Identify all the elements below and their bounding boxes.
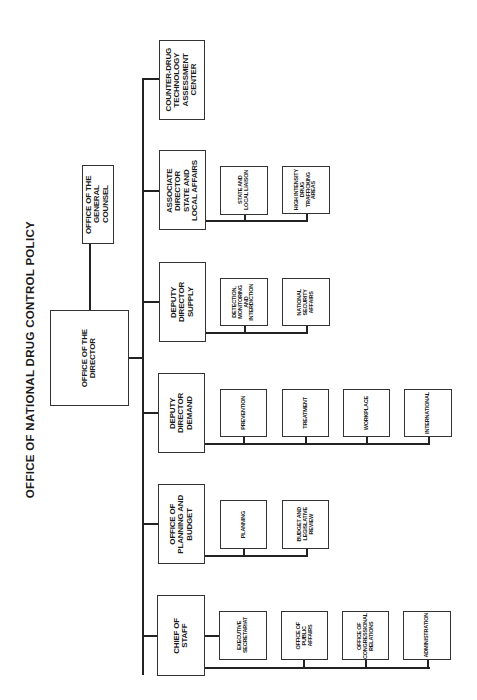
connector-counsel-director xyxy=(89,244,91,310)
connector-chief-exec-sec xyxy=(205,635,220,637)
sub-stub xyxy=(243,549,245,556)
sub-stub xyxy=(365,660,367,668)
box-prevention: PREVENTION xyxy=(220,389,267,437)
box-congressional-relations: OFFICE OF CONGRESSIONAL RELATIONS xyxy=(342,611,389,660)
sub-stub xyxy=(306,213,308,221)
main-spine xyxy=(142,78,144,675)
sub-stub xyxy=(428,437,430,444)
box-workplace: WORKPLACE xyxy=(343,389,390,437)
box-deputy-director-demand: DEPUTY DIRECTOR DEMAND xyxy=(158,373,205,453)
connector-counter-drug xyxy=(142,78,159,80)
box-deputy-director-supply: DEPUTY DIRECTOR SUPPLY xyxy=(159,262,206,342)
box-administration: ADMINISTRATION xyxy=(403,611,451,660)
box-hidta: HIGH INTENSITY DRUG TRAFFICKING AREAS xyxy=(282,166,330,214)
sub-bus-chief-of-staff xyxy=(205,667,430,669)
sub-stub xyxy=(303,660,305,668)
sub-stub xyxy=(306,549,308,556)
sub-bus-demand xyxy=(205,443,430,445)
box-budget-legislative-review: BUDGET AND LEGISLATIVE REVIEW xyxy=(282,500,329,549)
box-director: OFFICE OF THE DIRECTOR xyxy=(50,310,129,406)
box-planning-budget: OFFICE OF PLANNING AND BUDGET xyxy=(158,484,205,564)
sub-stub xyxy=(243,437,245,444)
sub-bus-supply xyxy=(206,332,308,334)
connector-supply xyxy=(142,301,159,303)
box-executive-secretariat: EXECUTIVE SECRETARIAT xyxy=(219,611,267,660)
chart-title: OFFICE OF NATIONAL DRUG CONTROL POLICY xyxy=(20,215,40,505)
box-planning: PLANNING xyxy=(220,500,267,549)
sub-stub xyxy=(244,326,246,333)
box-general-counsel: OFFICE OF THE GENERAL COUNSEL xyxy=(82,165,114,244)
sub-stub xyxy=(427,660,429,668)
box-international-demand: INTERNATIONAL xyxy=(404,389,452,437)
box-detection-interdiction: DETECTION, MONITORING AND INTERDICTION xyxy=(220,278,268,326)
box-chief-of-staff: CHIEF OF STAFF xyxy=(157,595,205,676)
box-associate-director-state-local: ASSOCIATE DIRECTOR STATE AND LOCAL AFFAI… xyxy=(159,150,206,230)
box-public-affairs: OFFICE OF PUBLIC AFFAIRS xyxy=(281,611,328,660)
connector-demand xyxy=(142,412,159,414)
sub-stub xyxy=(305,437,307,444)
sub-bus-planning xyxy=(205,555,308,557)
box-treatment: TREATMENT xyxy=(282,389,329,437)
connector-state-local xyxy=(142,190,159,192)
sub-stub xyxy=(244,215,246,221)
box-state-local-liaison: STATE AND LOCAL LIAISON xyxy=(220,166,268,215)
sub-stub xyxy=(366,437,368,444)
box-national-security-affairs: NATIONAL SECURITY AFFAIRS xyxy=(282,278,330,326)
connector-planning-budget xyxy=(142,523,159,525)
sub-bus-state-local xyxy=(206,220,308,222)
box-counter-drug-center: COUNTER-DRUG TECHNOLOGY ASSESSMENT CENTE… xyxy=(159,40,205,120)
sub-stub xyxy=(306,326,308,333)
